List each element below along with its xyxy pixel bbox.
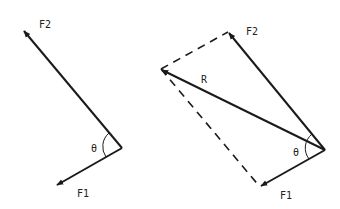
vector-drawing: [0, 0, 340, 209]
theta-arc: [103, 133, 109, 157]
dashed-top-edge: [161, 32, 228, 69]
right-f1-label: F1: [280, 191, 292, 201]
right-r-label: R: [201, 75, 207, 85]
f1-vector: [57, 148, 122, 185]
force-diagram: F2 θ F1 F2 R θ F1: [0, 0, 340, 209]
right-parallelogram: [161, 32, 325, 187]
left-vector-pair: [24, 31, 122, 185]
right-f2-label: F2: [246, 27, 258, 37]
theta-arc: [305, 134, 312, 159]
left-f1-label: F1: [77, 189, 89, 199]
f2-vector: [24, 31, 122, 148]
right-theta-label: θ: [293, 148, 299, 158]
r-vector: [162, 70, 325, 150]
f2-vector: [229, 33, 325, 150]
dashed-left-edge: [161, 69, 260, 187]
left-f2-label: F2: [39, 20, 51, 30]
left-theta-label: θ: [91, 144, 97, 154]
